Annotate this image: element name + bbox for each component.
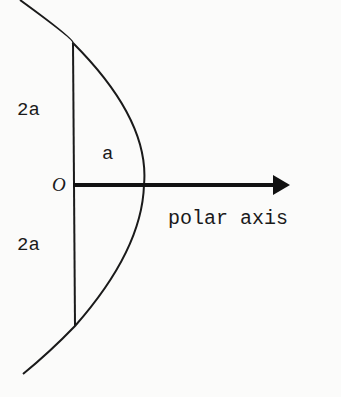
label-polar-axis: polar axis bbox=[168, 209, 288, 229]
label-a: a bbox=[102, 145, 113, 164]
arrowhead-icon bbox=[273, 175, 290, 195]
label-upper-2a: 2a bbox=[17, 101, 40, 120]
diagram-drawing bbox=[0, 0, 341, 397]
label-origin: O bbox=[52, 175, 66, 194]
parabola-polar-diagram: 2a a O 2a polar axis bbox=[0, 0, 341, 397]
label-lower-2a: 2a bbox=[17, 236, 40, 255]
